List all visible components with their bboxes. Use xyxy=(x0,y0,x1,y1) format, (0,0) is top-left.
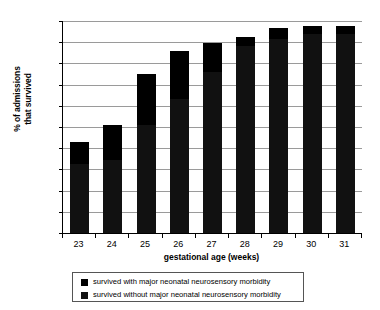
y-axis-tick xyxy=(59,42,63,43)
bar-segment-with-morbidity xyxy=(70,142,89,164)
x-axis-tick xyxy=(261,234,262,238)
x-axis-tick-label: 24 xyxy=(97,239,127,249)
bar-group xyxy=(103,21,122,233)
y-axis-title: % of admissions that survived xyxy=(12,40,34,158)
y-axis-tick xyxy=(59,169,63,170)
y-axis-tick xyxy=(59,106,63,107)
bar-segment-without-morbidity xyxy=(70,164,89,233)
bar-group xyxy=(269,21,288,233)
bar-segment-with-morbidity xyxy=(236,37,255,47)
x-axis-tick-label: 28 xyxy=(230,239,260,249)
x-axis-tick xyxy=(195,234,196,238)
bar-segment-without-morbidity xyxy=(170,99,189,233)
legend-label-with-morbidity: survived with major neonatal neurosensor… xyxy=(93,278,270,286)
x-axis-tick-label: 23 xyxy=(64,239,94,249)
bar-group xyxy=(170,21,189,233)
x-axis-tick-label: 29 xyxy=(263,239,293,249)
x-axis-tick xyxy=(162,234,163,238)
legend-swatch-with-morbidity xyxy=(81,279,88,286)
x-axis-tick xyxy=(295,234,296,238)
y-axis-tick xyxy=(59,212,63,213)
bar-segment-with-morbidity xyxy=(137,74,156,125)
bar-segment-without-morbidity xyxy=(203,72,222,233)
legend-item: survived with major neonatal neurosensor… xyxy=(81,276,303,288)
bar-segment-with-morbidity xyxy=(170,51,189,100)
x-axis-tick xyxy=(228,234,229,238)
bar-segment-without-morbidity xyxy=(103,160,122,233)
x-axis-tick-label: 27 xyxy=(197,239,227,249)
x-axis-tick xyxy=(62,234,63,238)
y-axis-tick xyxy=(59,85,63,86)
bar-group xyxy=(137,21,156,233)
x-axis-tick-labels: 232425262728293031 xyxy=(62,234,361,252)
y-axis-tick xyxy=(59,127,63,128)
bar-chart: % of admissions that survived 0102030405… xyxy=(0,0,380,310)
legend-label-without-morbidity: survived without major neonatal neurosen… xyxy=(93,291,281,299)
x-axis-tick xyxy=(328,234,329,238)
bar-segment-without-morbidity xyxy=(137,125,156,233)
bar-segment-without-morbidity xyxy=(269,39,288,233)
bar-segment-with-morbidity xyxy=(336,26,355,33)
y-axis-tick xyxy=(59,148,63,149)
x-axis-tick xyxy=(128,234,129,238)
y-axis-tick xyxy=(59,21,63,22)
x-axis-tick-label: 31 xyxy=(329,239,359,249)
bar-segment-with-morbidity xyxy=(203,43,222,72)
legend-item: survived without major neonatal neurosen… xyxy=(81,289,303,301)
bar-group xyxy=(336,21,355,233)
bar-segment-with-morbidity xyxy=(269,28,288,39)
bar-segment-with-morbidity xyxy=(303,26,322,33)
bar-segment-with-morbidity xyxy=(103,125,122,160)
bar-group xyxy=(303,21,322,233)
bar-segment-without-morbidity xyxy=(303,34,322,233)
x-axis-tick xyxy=(95,234,96,238)
x-axis-tick-label: 26 xyxy=(163,239,193,249)
bar-segment-without-morbidity xyxy=(236,46,255,233)
x-axis-title: gestational age (weeks) xyxy=(62,252,361,262)
bar-group xyxy=(236,21,255,233)
x-axis-tick-label: 30 xyxy=(296,239,326,249)
legend-swatch-without-morbidity xyxy=(81,292,88,299)
y-axis-tick xyxy=(59,63,63,64)
x-axis-tick xyxy=(361,234,362,238)
legend: survived with major neonatal neurosensor… xyxy=(72,272,304,302)
bar-group xyxy=(203,21,222,233)
bar-group xyxy=(70,21,89,233)
plot-area: 0102030405060708090100 xyxy=(62,21,362,234)
bar-segment-without-morbidity xyxy=(336,34,355,233)
y-axis-tick xyxy=(59,191,63,192)
x-axis-tick-label: 25 xyxy=(130,239,160,249)
